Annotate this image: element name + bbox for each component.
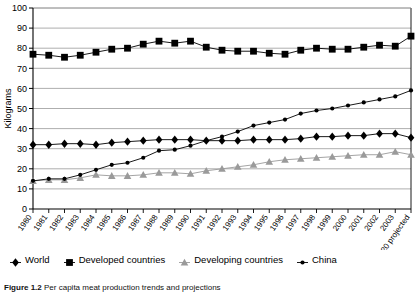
data-point — [203, 44, 210, 51]
data-point — [219, 47, 226, 54]
legend-item-developing-countries: Developing countries — [179, 254, 283, 265]
data-point — [409, 88, 413, 92]
data-point — [266, 50, 273, 57]
y-tick-label: 10 — [17, 184, 27, 194]
legend-item-china: China — [297, 254, 337, 265]
data-point — [313, 45, 320, 52]
x-tick-label: 1986 — [111, 213, 129, 233]
y-tick-label: 70 — [17, 64, 27, 74]
data-point — [93, 49, 100, 56]
data-point — [61, 54, 68, 61]
legend-label: China — [312, 254, 337, 265]
x-tick-label: 1983 — [63, 213, 81, 233]
y-tick-label: 40 — [17, 124, 27, 134]
x-tick-label: 1981 — [32, 213, 50, 233]
legend-label: World — [25, 254, 50, 265]
x-tick-label: 1987 — [126, 213, 144, 233]
y-tick-label: 0 — [22, 204, 27, 214]
x-tick-label: 2002 — [363, 213, 381, 233]
data-point — [236, 130, 240, 134]
figure-container: 0102030405060708090100Kilograms198019811… — [0, 0, 416, 297]
data-point — [110, 163, 114, 167]
data-point — [77, 52, 84, 59]
x-tick-label: 1997 — [284, 213, 302, 233]
data-point — [187, 38, 194, 45]
data-point — [393, 94, 397, 98]
data-point — [283, 117, 287, 121]
figure-caption: Figure 1.2 Per capita meat production tr… — [4, 283, 414, 293]
data-point — [156, 38, 163, 45]
data-point — [360, 44, 367, 51]
x-tick-label: 1984 — [79, 213, 97, 233]
y-tick-label: 50 — [17, 104, 27, 114]
data-point — [282, 51, 289, 58]
data-point — [314, 108, 318, 112]
data-point — [377, 97, 381, 101]
y-tick-label: 60 — [17, 84, 27, 94]
y-tick-label: 30 — [17, 144, 27, 154]
data-point — [140, 41, 147, 48]
legend-item-world: World — [10, 254, 50, 265]
x-tick-label: 1980 — [16, 213, 34, 233]
data-point — [392, 43, 399, 50]
legend-label: Developed countries — [79, 254, 166, 265]
data-point — [267, 120, 271, 124]
legend-item-developed-countries: Developed countries — [64, 254, 166, 265]
triangle-marker-icon — [179, 254, 190, 265]
data-point — [299, 111, 303, 115]
data-point — [346, 103, 350, 107]
data-point — [124, 45, 131, 52]
data-point — [171, 40, 178, 47]
data-point — [362, 100, 366, 104]
data-point — [300, 260, 304, 264]
data-point — [204, 139, 208, 143]
x-tick-label: 1989 — [158, 213, 176, 233]
chart-legend: WorldDeveloped countriesDeveloping count… — [10, 251, 410, 267]
data-point — [234, 48, 241, 55]
data-point — [330, 106, 334, 110]
x-tick-label: 1992 — [205, 213, 223, 233]
x-tick-label: 1988 — [142, 213, 160, 233]
data-point — [250, 48, 257, 55]
diamond-marker-icon — [10, 254, 21, 265]
meat-production-line-chart: 0102030405060708090100Kilograms198019811… — [0, 0, 416, 250]
x-tick-label: 2000 — [331, 213, 349, 233]
figure-caption-label: Figure 1.2 — [4, 283, 42, 292]
x-tick-label: 1998 — [300, 213, 318, 233]
y-tick-label: 80 — [17, 43, 27, 53]
data-point — [220, 135, 224, 139]
y-tick-label: 90 — [17, 23, 27, 33]
data-point — [157, 149, 161, 153]
data-point — [173, 148, 177, 152]
y-axis-title: Kilograms — [3, 88, 13, 129]
data-point — [12, 258, 19, 266]
data-point — [376, 42, 383, 49]
x-tick-label: 1985 — [95, 213, 113, 233]
x-tick-label: 1996 — [268, 213, 286, 233]
x-tick-label: 1995 — [252, 213, 270, 233]
x-tick-label: 2001 — [347, 213, 365, 233]
x-tick-label: 1982 — [48, 213, 66, 233]
data-point — [329, 46, 336, 53]
data-point — [345, 46, 352, 53]
data-point — [45, 52, 52, 59]
legend-label: Developing countries — [194, 254, 283, 265]
square-marker-icon — [64, 254, 75, 265]
data-point — [62, 177, 66, 181]
y-tick-label: 100 — [12, 3, 27, 13]
y-tick-label: 20 — [17, 164, 27, 174]
data-point — [31, 179, 35, 183]
data-point — [78, 173, 82, 177]
data-point — [66, 259, 73, 266]
data-point — [188, 144, 192, 148]
data-point — [297, 47, 304, 54]
data-point — [108, 46, 115, 53]
data-point — [408, 33, 415, 40]
x-tick-label: 1993 — [221, 213, 239, 233]
data-point — [30, 51, 37, 58]
data-point — [94, 168, 98, 172]
x-tick-label: 1990 — [174, 213, 192, 233]
data-point — [141, 156, 145, 160]
data-point — [47, 177, 51, 181]
figure-caption-text: Per capita meat production trends and pr… — [44, 283, 221, 292]
